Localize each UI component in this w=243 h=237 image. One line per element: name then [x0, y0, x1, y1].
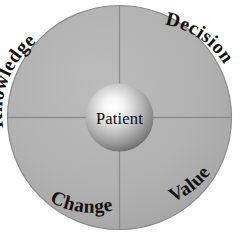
center-sphere-label: Patient — [96, 109, 143, 128]
patient-care-wheel: Knowledge Decision Change Value Patient — [0, 0, 243, 237]
diagram-canvas: Knowledge Decision Change Value Patient — [0, 0, 243, 237]
